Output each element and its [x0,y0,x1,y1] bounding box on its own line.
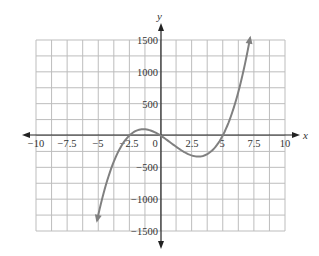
y-tick-label: −500 [136,162,158,173]
y-axis-down-arrow-icon [158,241,164,249]
x-tick-label: 0 [152,138,157,149]
x-tick-label: −5 [92,138,103,149]
axes: x y [22,10,308,249]
x-tick-label: −7.5 [57,138,76,149]
cubic-curve [95,36,253,223]
y-tick-label: 1000 [137,67,158,78]
y-tick-label: 1500 [137,35,158,46]
x-tick-label: 7.5 [247,138,260,149]
y-tick-label: −1000 [131,194,158,205]
y-axis-up-arrow-icon [158,23,164,31]
x-axis-label: x [302,129,308,141]
x-axis-right-arrow-icon [292,132,300,138]
x-tick-label: 10 [280,138,291,149]
curve-path [97,38,250,221]
x-tick-label: −10 [28,138,44,149]
y-tick-label: 500 [142,99,158,110]
x-tick-label: 2.5 [185,138,198,149]
chart: x y −10 −7.5 −5 −2.5 0 2.5 5 7.5 10 1500… [0,0,319,256]
x-tick-labels: −10 −7.5 −5 −2.5 0 2.5 5 7.5 10 [28,138,290,149]
y-tick-label: −1500 [131,226,158,237]
y-axis-label: y [156,10,162,22]
